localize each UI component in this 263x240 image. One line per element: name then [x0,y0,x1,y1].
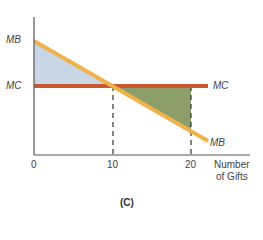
x-axis-label-line1: Number [214,159,250,170]
x-tick-20: 20 [185,159,196,170]
mc-left-label: MC [6,80,22,91]
x-axis-label-line2: of Gifts [216,171,248,182]
figure-caption: (C) [120,197,134,208]
x-tick-0: 0 [31,159,37,170]
mc-right-label: MC [213,80,229,91]
mb-left-label: MB [6,34,21,45]
x-tick-10: 10 [107,159,118,170]
mb-right-label: MB [210,137,225,148]
